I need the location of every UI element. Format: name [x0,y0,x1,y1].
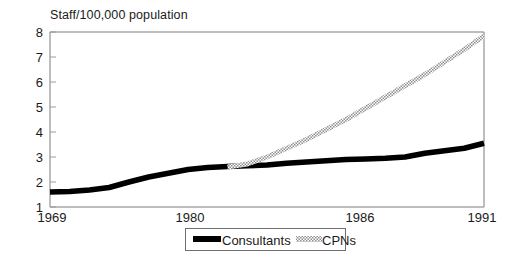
y-tick-label: 5 [36,100,43,115]
y-tick-label: 2 [36,175,43,190]
y-tick-label: 3 [36,150,43,165]
x-tick-label: 1980 [176,210,205,225]
y-axis-labels: 8 7 6 5 4 3 2 1 [36,25,43,215]
x-tick-label: 1986 [346,210,375,225]
series-line-cpns [228,36,484,167]
x-axis-labels: 1969 1980 1986 1991 [38,210,497,225]
series-layer [50,36,484,192]
series-line-consultants [50,143,484,192]
y-tick-label: 8 [36,25,43,40]
x-tick-label: 1969 [38,210,67,225]
chart-legend: Consultants CPNs [186,229,357,251]
y-axis-ticks [50,32,56,207]
chart-container: Staff/100,000 population 8 [0,0,520,261]
y-tick-label: 7 [36,50,43,65]
x-tick-label: 1991 [468,210,497,225]
y-tick-label: 4 [36,125,43,140]
legend-swatch-cpns [296,236,322,242]
line-chart: 8 7 6 5 4 3 2 1 1969 1980 1986 1991 Cons… [0,0,520,261]
legend-label-cpns: CPNs [322,233,356,248]
plot-axes [50,32,484,207]
legend-label-consultants: Consultants [222,233,291,248]
y-tick-label: 6 [36,75,43,90]
legend-swatch-consultants [193,236,221,242]
